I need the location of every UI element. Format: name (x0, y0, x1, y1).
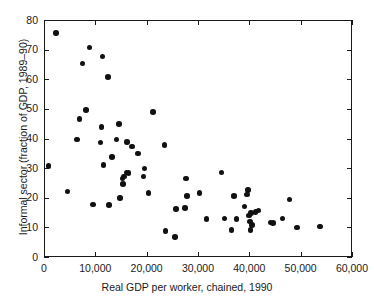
y-axis-tick-right (347, 79, 352, 80)
data-point (126, 170, 132, 176)
x-axis-tick-top (147, 20, 148, 25)
data-point (184, 193, 190, 199)
data-point (173, 206, 179, 212)
y-axis-tick-right (347, 257, 352, 258)
x-axis-tick-top (95, 20, 96, 25)
data-point (222, 216, 228, 222)
data-point (146, 190, 152, 196)
data-point (229, 227, 235, 233)
data-point (248, 227, 254, 233)
data-point (172, 234, 178, 240)
data-point (53, 30, 59, 36)
scatter-plot-figure: 01020304050607080010,00020,00030,00040,0… (0, 0, 374, 304)
data-point (74, 137, 80, 143)
x-axis-tick-label: 10,000 (79, 263, 111, 274)
y-axis-tick-right (347, 227, 352, 228)
y-axis-tick (44, 257, 49, 258)
data-points-layer (45, 21, 351, 256)
x-axis-tick (249, 252, 250, 257)
data-point (234, 216, 240, 222)
y-axis-tick-right (347, 109, 352, 110)
y-axis-tick (44, 79, 49, 80)
data-point (77, 116, 83, 122)
data-point (101, 162, 107, 168)
data-point (163, 228, 169, 234)
y-axis-tick (44, 139, 49, 140)
y-axis-tick-right (347, 198, 352, 199)
data-point (106, 202, 112, 208)
data-point (90, 202, 96, 208)
data-point (100, 54, 106, 60)
data-point (256, 208, 262, 214)
y-axis-tick (44, 109, 49, 110)
data-point (116, 121, 122, 127)
data-point (162, 142, 168, 148)
x-axis-tick (352, 252, 353, 257)
x-axis-tick-label: 40,000 (233, 263, 265, 274)
data-point (117, 195, 123, 201)
data-point (99, 124, 105, 130)
y-axis-tick (44, 50, 49, 51)
data-point (183, 176, 189, 182)
data-point (245, 187, 251, 193)
y-axis-tick-right (347, 50, 352, 51)
y-axis-tick-right (347, 139, 352, 140)
data-point (80, 61, 86, 67)
x-axis-tick-label: 20,000 (131, 263, 163, 274)
x-axis-tick-top (301, 20, 302, 25)
x-axis-tick (44, 252, 45, 257)
data-point (109, 154, 115, 160)
x-axis-tick-label: 0 (41, 263, 47, 274)
y-axis-tick (44, 227, 49, 228)
data-point (114, 137, 120, 143)
y-axis-tick-right (347, 168, 352, 169)
data-point (280, 216, 286, 222)
data-point (182, 205, 188, 211)
data-point (83, 107, 89, 113)
data-point (135, 151, 141, 157)
y-axis-tick (44, 198, 49, 199)
x-axis-tick (301, 252, 302, 257)
x-axis-tick-top (44, 20, 45, 25)
data-point (231, 193, 237, 199)
x-axis-tick-top (352, 20, 353, 25)
x-axis-tick-label: 30,000 (182, 263, 214, 274)
data-point (98, 140, 104, 146)
data-point (294, 225, 300, 231)
x-axis-tick (147, 252, 148, 257)
data-point (150, 109, 156, 115)
data-point (242, 204, 248, 210)
x-axis-tick-top (198, 20, 199, 25)
y-axis-title: Informal sector (fraction of GDP, 1989–9… (17, 17, 29, 257)
data-point (219, 170, 225, 176)
data-point (65, 189, 71, 195)
x-axis-tick (95, 252, 96, 257)
data-point (129, 144, 135, 150)
y-axis-tick (44, 168, 49, 169)
data-point (270, 220, 276, 226)
data-point (317, 224, 323, 230)
plot-area (44, 20, 352, 257)
data-point (249, 222, 255, 228)
data-point (120, 181, 126, 187)
x-axis-tick-label: 60,000 (336, 263, 368, 274)
data-point (142, 166, 148, 172)
data-point (141, 174, 147, 180)
data-point (287, 197, 293, 203)
data-point (197, 190, 203, 196)
x-axis-tick-label: 50,000 (285, 263, 317, 274)
data-point (204, 216, 210, 222)
data-point (105, 74, 111, 80)
x-axis-tick (198, 252, 199, 257)
x-axis-tick-top (249, 20, 250, 25)
x-axis-title: Real GDP per worker, chained, 1990 (0, 281, 374, 293)
data-point (87, 45, 93, 51)
